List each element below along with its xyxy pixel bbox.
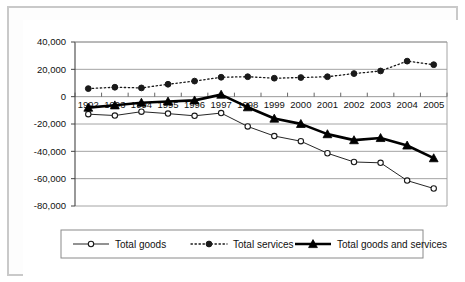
chart-plate: 40,00020,0000-20,000-40,000-60,000-80,00… xyxy=(23,20,460,278)
data-point-open-circle xyxy=(112,113,117,118)
data-point-open-circle xyxy=(88,241,93,246)
figure-border: 40,00020,0000-20,000-40,000-60,000-80,00… xyxy=(7,6,458,276)
x-tick-label: 2002 xyxy=(343,99,364,110)
chart-legend: Total goodsTotal servicesTotal goods and… xyxy=(61,230,447,258)
x-tick-label: 1997 xyxy=(211,99,232,110)
data-point-open-circle xyxy=(272,133,277,138)
data-point-filled-circle xyxy=(206,241,212,247)
data-point-open-circle xyxy=(351,159,356,164)
x-tick-label: 1999 xyxy=(264,99,285,110)
x-tick-label: 2004 xyxy=(397,99,418,110)
legend-label: Total goods xyxy=(115,239,166,250)
y-tick-label: -40,000 xyxy=(34,146,66,157)
y-axis-tick-labels: 40,00020,0000-20,000-40,000-60,000-80,00… xyxy=(34,36,66,211)
x-axis-ticks xyxy=(75,93,447,97)
data-point-filled-circle xyxy=(192,78,198,84)
data-point-open-circle xyxy=(245,124,250,129)
data-point-open-circle xyxy=(218,110,223,115)
x-tick-label: 2001 xyxy=(317,99,338,110)
data-point-open-circle xyxy=(325,151,330,156)
y-tick-label: -80,000 xyxy=(34,200,66,211)
data-point-filled-circle xyxy=(351,71,357,77)
data-point-filled-circle xyxy=(325,74,331,80)
y-tick-label: -60,000 xyxy=(34,173,66,184)
series-line xyxy=(88,112,433,189)
line-chart: 40,00020,0000-20,000-40,000-60,000-80,00… xyxy=(23,20,460,278)
data-point-filled-circle xyxy=(85,86,91,92)
data-point-open-circle xyxy=(139,109,144,114)
data-point-filled-circle xyxy=(245,74,251,80)
y-tick-label: 20,000 xyxy=(37,64,66,75)
x-tick-label: 2003 xyxy=(370,99,391,110)
data-point-open-circle xyxy=(378,160,383,165)
series-2 xyxy=(85,58,436,91)
data-point-filled-circle xyxy=(165,81,171,87)
data-point-open-circle xyxy=(192,113,197,118)
legend-label: Total goods and services xyxy=(337,239,447,250)
data-point-open-circle xyxy=(404,178,409,183)
y-tick-label: -20,000 xyxy=(34,118,66,129)
x-tick-label: 2005 xyxy=(423,99,444,110)
y-tick-label: 40,000 xyxy=(37,36,66,47)
data-point-open-circle xyxy=(431,186,436,191)
legend-label: Total services xyxy=(233,239,294,250)
chart-figure: 40,00020,0000-20,000-40,000-60,000-80,00… xyxy=(0,0,465,282)
data-point-open-circle xyxy=(298,139,303,144)
data-point-filled-circle xyxy=(139,85,145,91)
y-tick-label: 0 xyxy=(61,91,66,102)
series-line xyxy=(88,61,433,88)
data-point-filled-circle xyxy=(378,68,384,74)
x-tick-label: 2000 xyxy=(290,99,311,110)
data-series-group xyxy=(84,58,438,191)
data-point-filled-circle xyxy=(271,75,277,81)
data-point-filled-circle xyxy=(298,75,304,81)
data-point-filled-circle xyxy=(431,62,437,68)
data-point-filled-circle xyxy=(112,84,118,90)
data-point-open-circle xyxy=(165,111,170,116)
data-point-filled-circle xyxy=(218,74,224,80)
data-point-open-circle xyxy=(86,111,91,116)
data-point-filled-circle xyxy=(404,58,410,64)
